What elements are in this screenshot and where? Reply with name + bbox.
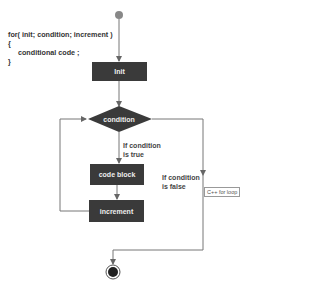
condition-node-label: condition — [100, 115, 138, 124]
code-block-node: code block — [90, 164, 144, 185]
init-node: Init — [92, 62, 147, 81]
false-branch-label: If condition is false — [162, 173, 200, 191]
start-node-icon — [115, 11, 123, 19]
cpp-for-loop-tag: C++ for loop — [204, 187, 240, 197]
increment-node: increment — [89, 200, 144, 222]
end-node-inner-icon — [108, 267, 118, 277]
true-branch-label: If condition is true — [123, 141, 161, 159]
